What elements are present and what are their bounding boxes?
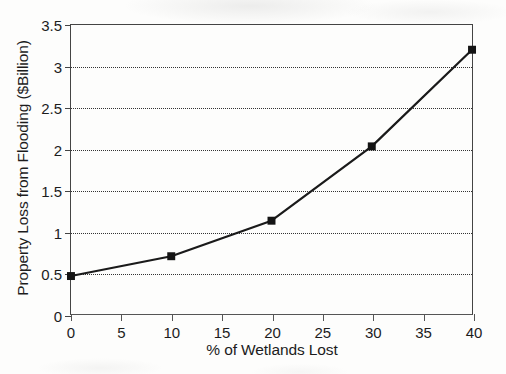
x-axis-title: % of Wetlands Lost xyxy=(70,341,474,359)
data-point-marker xyxy=(268,217,276,225)
y-tick-label: 2.5 xyxy=(41,100,62,117)
y-tick-label: 0 xyxy=(54,308,62,325)
x-tick-mark xyxy=(474,314,475,321)
series-markers xyxy=(67,46,476,280)
data-point-marker xyxy=(67,272,75,280)
x-tick-label: 35 xyxy=(415,324,432,341)
y-tick-mark xyxy=(65,108,71,109)
x-tick-mark xyxy=(222,314,223,321)
y-tick-label: 1.5 xyxy=(41,183,62,200)
x-tick-mark xyxy=(273,314,274,321)
x-tick-label: 40 xyxy=(466,324,483,341)
y-axis-title: Property Loss from Flooding ($Billion) xyxy=(14,18,36,318)
y-tick-mark xyxy=(65,25,71,26)
x-tick-label: 25 xyxy=(315,324,332,341)
x-tick-mark xyxy=(373,314,374,321)
chart-page: Property Loss from Flooding ($Billion) 0… xyxy=(0,0,506,374)
plot-area: 00.511.522.533.5 0510152025303540 xyxy=(70,24,473,315)
x-tick-mark xyxy=(172,314,173,321)
y-tick-label: 1 xyxy=(54,224,62,241)
y-tick-label: 0.5 xyxy=(41,266,62,283)
gridline-y xyxy=(71,150,472,151)
y-tick-mark xyxy=(65,191,71,192)
gridline-y xyxy=(71,108,472,109)
y-tick-mark xyxy=(65,150,71,151)
gridline-y xyxy=(71,233,472,234)
y-tick-mark xyxy=(65,233,71,234)
x-tick-mark xyxy=(323,314,324,321)
y-tick-label: 2 xyxy=(54,141,62,158)
gridline-y xyxy=(71,67,472,68)
gridline-y xyxy=(71,274,472,275)
x-tick-label: 20 xyxy=(264,324,281,341)
y-tick-label: 3.5 xyxy=(41,17,62,34)
x-tick-label: 0 xyxy=(67,324,75,341)
y-tick-mark xyxy=(65,67,71,68)
x-tick-label: 30 xyxy=(365,324,382,341)
data-point-marker xyxy=(167,252,175,260)
x-tick-label: 10 xyxy=(163,324,180,341)
series-polyline xyxy=(71,50,472,276)
x-tick-mark xyxy=(121,314,122,321)
x-tick-mark xyxy=(71,314,72,321)
gridline-y xyxy=(71,191,472,192)
y-tick-mark xyxy=(65,274,71,275)
data-point-marker xyxy=(468,46,476,54)
x-tick-label: 15 xyxy=(214,324,231,341)
x-tick-label: 5 xyxy=(117,324,125,341)
x-tick-mark xyxy=(424,314,425,321)
y-tick-label: 3 xyxy=(54,58,62,75)
